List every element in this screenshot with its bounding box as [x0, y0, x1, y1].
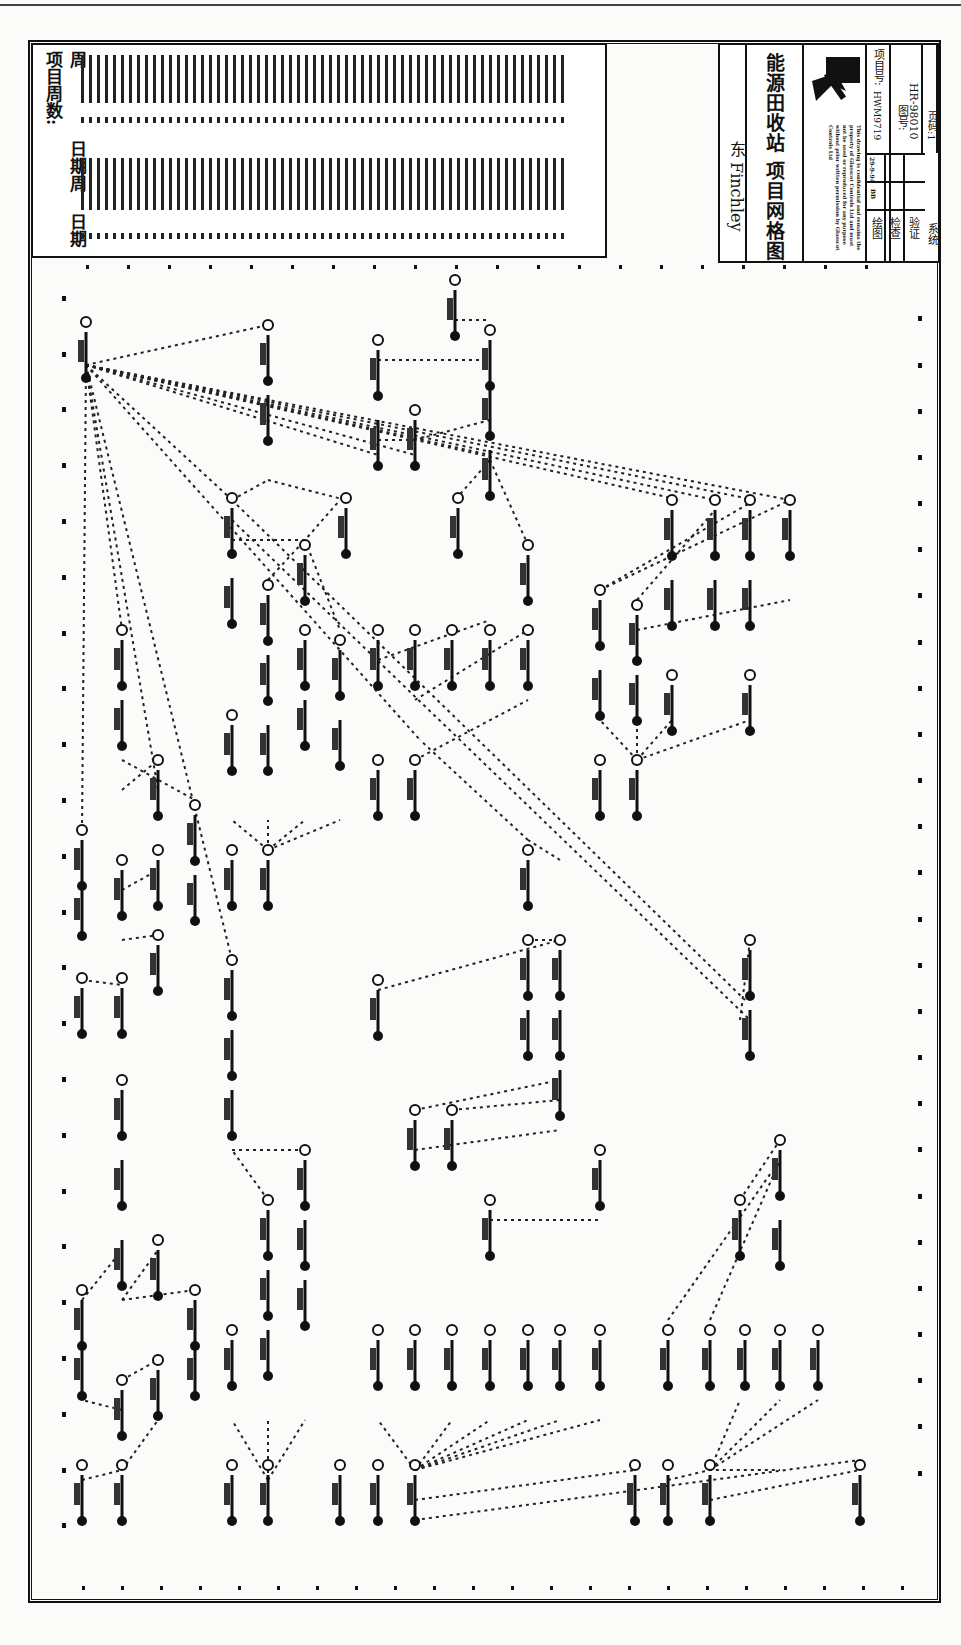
- activity-nodes: [74, 275, 865, 1526]
- grid-tick-marks: [62, 265, 922, 1590]
- legend-value-marks: [31, 43, 607, 258]
